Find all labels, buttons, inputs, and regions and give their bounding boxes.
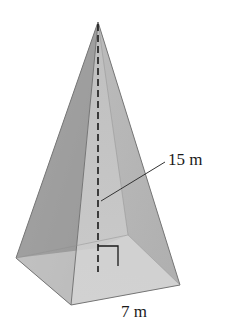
pyramid-diagram	[0, 0, 239, 328]
base-side-label: 7 m	[121, 303, 147, 320]
height-label: 15 m	[168, 151, 202, 168]
